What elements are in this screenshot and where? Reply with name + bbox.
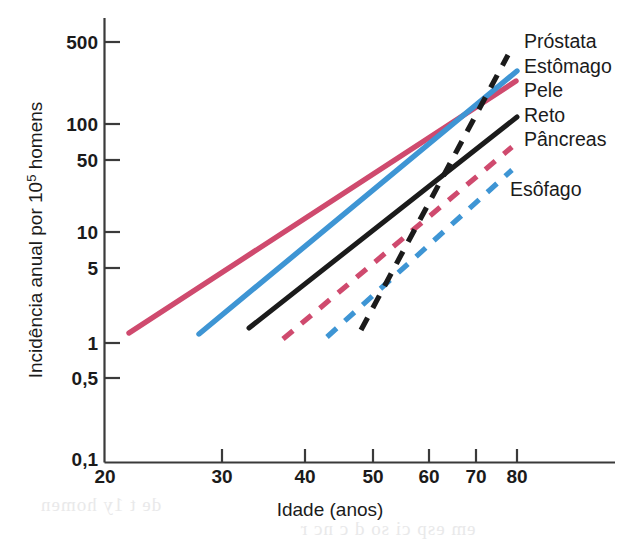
x-tick-label-40: 40: [294, 466, 315, 487]
y-tick-label-5: 5: [87, 258, 98, 279]
y-tick-label-1: 1: [87, 333, 98, 354]
x-tick-label-30: 30: [211, 466, 232, 487]
y-tick-label-10: 10: [77, 222, 98, 243]
y-tick-labels: 500 100 50 10 5 1 0,5 0,1: [66, 32, 98, 470]
x-axis-title: Idade (anos): [277, 499, 384, 520]
legend-label-prostata: Próstata: [524, 30, 597, 52]
x-tick-labels: 20 30 40 50 60 70 80: [94, 466, 527, 487]
y-axis-title-base: Incidência anual por 10: [25, 182, 46, 378]
legend-label-pele: Pele: [524, 79, 563, 101]
y-tick-label-500: 500: [66, 32, 98, 53]
y-tick-label-100: 100: [66, 114, 98, 135]
x-tick-label-20: 20: [94, 466, 115, 487]
y-axis-title: Incidência anual por 105 homens: [24, 102, 46, 379]
y-axis-title-tail: homens: [25, 102, 46, 175]
y-tick-label-50: 50: [77, 150, 98, 171]
chart-svg: 500 100 50 10 5 1 0,5 0,1 20 30 40 50 60…: [0, 0, 637, 539]
x-tick-label-50: 50: [362, 466, 383, 487]
series-line-reto: [249, 117, 517, 328]
x-tick-label-70: 70: [465, 466, 486, 487]
x-tick-label-80: 80: [506, 466, 527, 487]
series-line-pancreas: [283, 147, 512, 339]
legend: Próstata Estômago Pele Reto Pâncreas Esô…: [510, 30, 612, 200]
y-axis-title-exponent: 5: [24, 175, 39, 182]
x-tick-marks: [222, 449, 517, 463]
series-line-estomago: [199, 71, 517, 334]
x-tick-label-60: 60: [418, 466, 439, 487]
incidence-vs-age-chart: 500 100 50 10 5 1 0,5 0,1 20 30 40 50 60…: [0, 0, 637, 539]
svg-text:Incidência anual por 105 homen: Incidência anual por 105 homens: [24, 102, 46, 379]
y-tick-marks: [105, 42, 121, 378]
legend-label-pancreas: Pâncreas: [524, 128, 607, 150]
y-tick-label-0.5: 0,5: [72, 368, 99, 389]
legend-label-esofago: Esôfago: [510, 178, 582, 200]
legend-label-reto: Reto: [524, 104, 565, 126]
legend-label-estomago: Estômago: [524, 55, 612, 77]
